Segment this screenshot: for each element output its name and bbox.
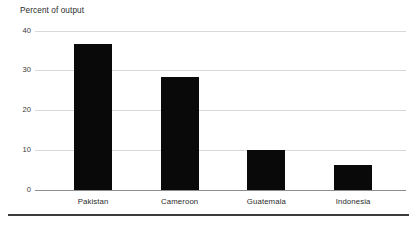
bottom-divider-rule — [8, 214, 409, 216]
gridline-40 — [35, 31, 406, 32]
x-axis-label-pakistan: Pakistan — [48, 197, 138, 206]
x-axis-label-cameroon: Cameroon — [135, 197, 225, 206]
bar-guatemala — [247, 150, 285, 190]
bar-cameroon — [161, 77, 199, 190]
y-axis-tick-label: 30 — [12, 66, 31, 74]
y-axis-tick-label: 20 — [12, 106, 31, 114]
plot-area: 010203040PakistanCameroonGuatemalaIndone… — [0, 0, 417, 200]
bar-chart-figure: Percent of output 010203040PakistanCamer… — [0, 0, 417, 225]
bar-pakistan — [74, 44, 112, 190]
x-axis-label-indonesia: Indonesia — [308, 197, 398, 206]
bar-indonesia — [334, 165, 372, 190]
x-axis-label-guatemala: Guatemala — [221, 197, 311, 206]
y-axis-tick-label: 40 — [12, 27, 31, 35]
y-axis-tick-label: 10 — [12, 146, 31, 154]
y-axis-tick-label: 0 — [12, 186, 31, 194]
